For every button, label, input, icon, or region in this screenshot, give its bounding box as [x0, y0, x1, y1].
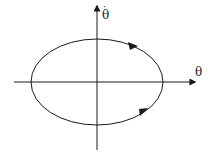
y-axis-label: θ · — [102, 1, 109, 22]
orbit-arrow-icon-top — [128, 42, 138, 50]
x-axis-label: θ — [195, 65, 202, 79]
svg-text:·: · — [103, 1, 106, 12]
phase-portrait-diagram: θ θ · — [0, 0, 208, 152]
orbit-arrow-icon-bottom — [139, 108, 148, 116]
